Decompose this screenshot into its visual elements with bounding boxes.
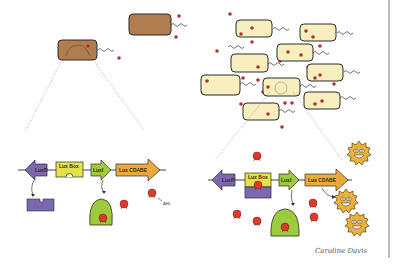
bacterium-cell [300, 24, 353, 41]
right-panel: LuxR Lux Box LuxI Lux CDABE [201, 12, 371, 255]
gene-label: Lux Box [59, 163, 79, 169]
gene-label: Lux CDABE [119, 167, 148, 173]
gene-luxbox: Lux Box [245, 173, 271, 198]
bacterium-cell [243, 103, 295, 120]
luxI-enzyme [271, 209, 299, 236]
gene-luxCDABE: Lux CDABE [305, 169, 348, 191]
gene-luxR: LuxR [212, 170, 235, 190]
bacterium-cell [307, 64, 360, 81]
gene-luxbox: Lux Box [56, 162, 83, 177]
gene-label: Lux CDABE [308, 177, 337, 183]
bacterium-cell [236, 20, 289, 37]
bacterium-cell [228, 46, 284, 73]
artist-signature: Caroline Davis [315, 247, 367, 255]
bacterium-cell [129, 14, 187, 39]
left-panel: LuxR Lux Box LuxI Lux CDABE [18, 14, 187, 225]
glowing-bacterium [345, 212, 369, 236]
glowing-bacterium [347, 141, 371, 165]
quorum-sensing-illustration: LuxR Lux Box LuxI Lux CDABE [0, 0, 401, 264]
bacterium-cell [304, 92, 356, 109]
gene-label: LuxI [281, 177, 292, 183]
gene-label: LuxR [35, 167, 48, 173]
gene-luxR: LuxR [25, 160, 48, 180]
ahl-label: AHL [163, 201, 172, 206]
bacterium-cell-zoomed [58, 40, 121, 60]
luxR-protein [27, 199, 54, 211]
gene-luxCDABE: Lux CDABE [116, 159, 160, 181]
glowing-bacterium [334, 189, 358, 213]
luxI-enzyme [90, 199, 128, 225]
gene-label: LuxI [93, 167, 104, 173]
operon-right: LuxR Lux Box LuxI Lux CDABE [208, 169, 352, 206]
gene-label: Lux Box [248, 174, 268, 180]
gene-label: LuxR [222, 177, 235, 183]
gene-luxI: LuxI [279, 170, 299, 190]
bacterium-cell [201, 75, 256, 95]
ahl-molecule: AHL [148, 189, 172, 206]
gene-luxI: LuxI [91, 160, 111, 180]
operon-left: LuxR Lux Box LuxI Lux CDABE [18, 159, 166, 197]
